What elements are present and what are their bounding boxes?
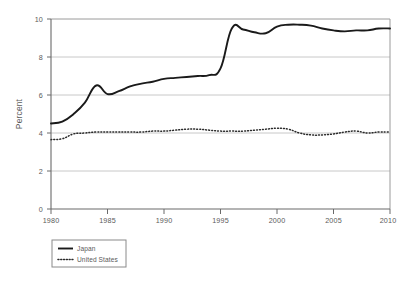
- chart-figure: 10 8 6 4 2 0 Percent 1980 1985 1990 1995…: [0, 0, 410, 282]
- x-tick-label-1995: 1995: [212, 216, 229, 225]
- legend: Japan United States: [52, 240, 126, 267]
- y-tick-label-10: 10: [35, 15, 43, 24]
- line-chart-svg: 10 8 6 4 2 0 Percent 1980 1985 1990 1995…: [0, 0, 410, 282]
- y-axis-title: Percent: [14, 98, 24, 129]
- y-tick-label-6: 6: [39, 91, 43, 100]
- y-tick-label-8: 8: [39, 53, 43, 62]
- x-tick-label-1980: 1980: [43, 216, 60, 225]
- x-tick-label-1990: 1990: [156, 216, 173, 225]
- x-tick-label-2005: 2005: [325, 216, 342, 225]
- legend-label-united-states: United States: [77, 256, 118, 263]
- x-tick-label-2000: 2000: [269, 216, 286, 225]
- y-tick-label-4: 4: [39, 129, 43, 138]
- y-tick-label-2: 2: [39, 167, 43, 176]
- x-tick-label-2010: 2010: [380, 216, 397, 225]
- x-tick-label-1985: 1985: [99, 216, 116, 225]
- y-tick-label-0: 0: [39, 205, 43, 214]
- legend-label-japan: Japan: [77, 245, 96, 253]
